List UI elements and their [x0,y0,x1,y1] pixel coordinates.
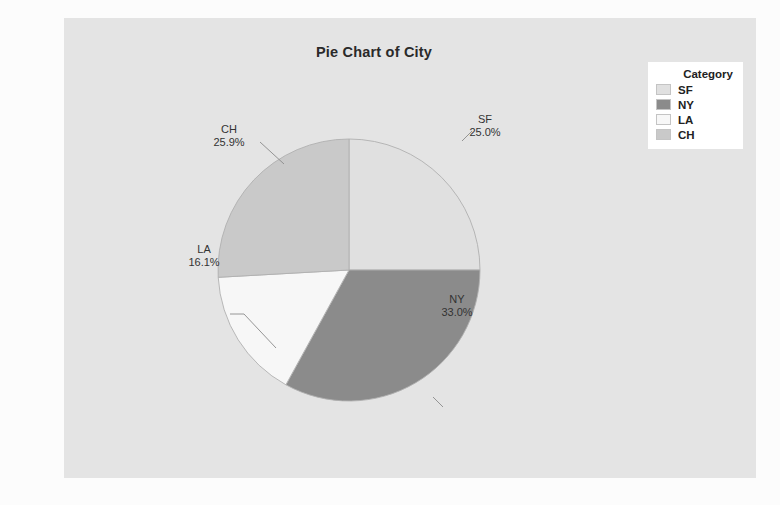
slice-label-la-percent: 16.1% [169,256,239,269]
slice-label-sf-name: SF [450,113,520,126]
legend-label-sf: SF [678,84,693,96]
legend-label-ny: NY [678,99,694,111]
slice-label-ch: CH 25.9% [194,123,264,149]
slice-label-ny: NY 33.0% [422,293,492,319]
slice-label-sf: SF 25.0% [450,113,520,139]
pie-slice-group [218,139,480,401]
slice-label-la: LA 16.1% [169,243,239,269]
slice-label-ch-name: CH [194,123,264,136]
legend-swatch-sf [656,84,671,95]
legend-label-ch: CH [678,129,695,141]
legend-label-la: LA [678,114,693,126]
slice-label-sf-percent: 25.0% [450,126,520,139]
pie-slice-sf[interactable] [349,139,480,270]
legend-item-ny[interactable]: NY [656,97,735,112]
legend-title: Category [656,68,735,80]
legend: Category SFNYLACH [648,62,743,149]
legend-swatch-ch [656,129,671,140]
legend-item-ch[interactable]: CH [656,127,735,142]
slice-label-ch-percent: 25.9% [194,136,264,149]
legend-swatch-la [656,114,671,125]
legend-item-sf[interactable]: SF [656,82,735,97]
legend-item-la[interactable]: LA [656,112,735,127]
slice-label-ny-name: NY [422,293,492,306]
chart-panel: Pie Chart of City SF 25.0% NY 33.0% [64,18,756,478]
legend-item-list: SFNYLACH [656,82,735,142]
page-canvas: Pie Chart of City SF 25.0% NY 33.0% [0,0,780,505]
slice-label-ny-percent: 33.0% [422,306,492,319]
legend-swatch-ny [656,99,671,110]
leader-line-ny [433,397,443,407]
slice-label-la-name: LA [169,243,239,256]
